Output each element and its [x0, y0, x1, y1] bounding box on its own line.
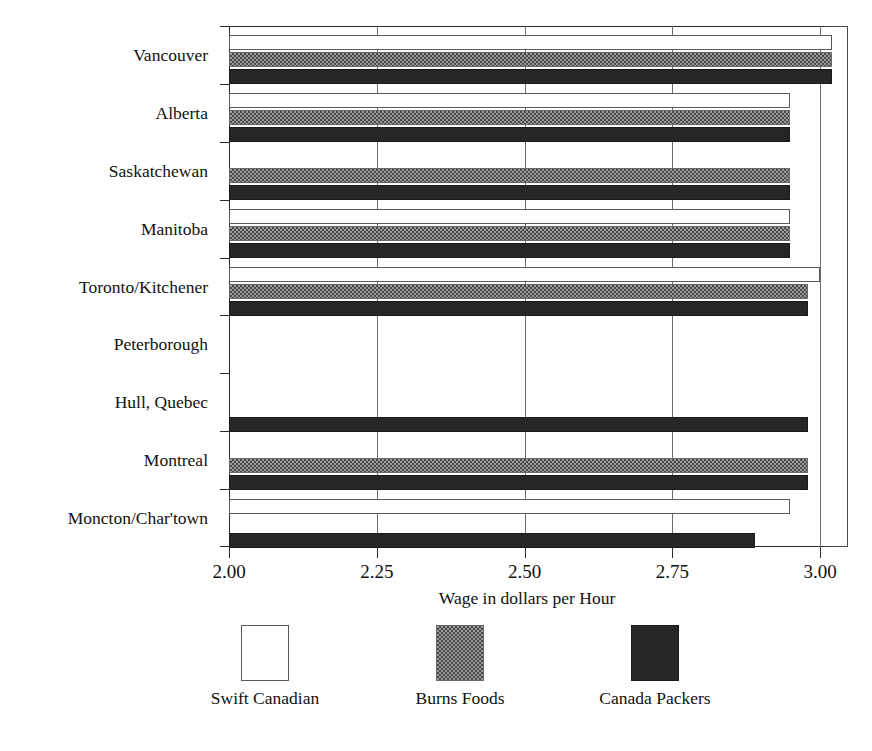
bar [229, 533, 755, 548]
legend-item[interactable]: Canada Packers [570, 625, 740, 709]
bar [229, 69, 832, 84]
y-axis-label: Hull, Quebec [0, 393, 208, 411]
bar [229, 499, 790, 514]
bar [229, 168, 790, 183]
y-axis-tick [220, 546, 229, 547]
bar [229, 35, 832, 50]
legend-item[interactable]: Burns Foods [375, 625, 545, 709]
bar [229, 417, 808, 432]
y-axis-tick [220, 142, 229, 143]
x-axis-tick-label: 2.25 [337, 561, 417, 583]
plot-right-top-edge [825, 26, 847, 27]
gridline [820, 26, 821, 547]
legend-item[interactable]: Swift Canadian [180, 625, 350, 709]
bar [229, 475, 808, 490]
x-axis-tick [820, 547, 821, 558]
x-axis-tick-label: 2.00 [189, 561, 269, 583]
legend-label: Canada Packers [570, 687, 740, 709]
y-axis-tick [220, 431, 229, 432]
bar [229, 110, 790, 125]
y-axis-label: Peterborough [0, 335, 208, 353]
bar [229, 243, 790, 258]
plot-right-bottom-edge [825, 546, 847, 547]
bar [229, 284, 808, 299]
x-axis-tick [229, 547, 230, 558]
plot-area [229, 26, 825, 547]
legend-label: Swift Canadian [180, 687, 350, 709]
y-axis-label: Saskatchewan [0, 162, 208, 180]
bar [229, 301, 808, 316]
bar [229, 226, 790, 241]
y-axis-label: Montreal [0, 451, 208, 469]
legend-swatch-white-open-square [241, 625, 289, 681]
y-axis-tick [220, 315, 229, 316]
bar [229, 185, 790, 200]
x-axis-tick-label: 3.00 [780, 561, 860, 583]
x-axis-tick-label: 2.75 [632, 561, 712, 583]
y-axis-tick [220, 84, 229, 85]
y-axis-tick [220, 258, 229, 259]
bar [229, 52, 832, 67]
x-axis-title: Wage in dollars per Hour [229, 587, 825, 609]
plot-right-edge [847, 26, 848, 547]
legend-swatch-black-filled-square [631, 625, 679, 681]
y-axis-tick [220, 200, 229, 201]
bar [229, 458, 808, 473]
y-axis-label: Manitoba [0, 220, 208, 238]
y-axis-label: Moncton/Char'town [0, 509, 208, 527]
x-axis-tick [377, 547, 378, 558]
bar [229, 127, 790, 142]
y-axis-label: Vancouver [0, 46, 208, 64]
legend-swatch-gray-checker-square [436, 625, 484, 681]
bar [229, 93, 790, 108]
legend-swatch-wrapper [180, 625, 350, 687]
y-axis-label: Alberta [0, 104, 208, 122]
legend-swatch-wrapper [375, 625, 545, 687]
bar-chart: VancouverAlbertaSaskatchewanManitobaToro… [0, 0, 872, 751]
bar [229, 209, 790, 224]
y-axis-tick [220, 489, 229, 490]
y-axis-category-labels: VancouverAlbertaSaskatchewanManitobaToro… [0, 26, 218, 547]
x-axis-tick [525, 547, 526, 558]
legend-swatch-wrapper [570, 625, 740, 687]
bar [229, 267, 820, 282]
y-axis-tick [220, 373, 229, 374]
x-axis-tick-label: 2.50 [485, 561, 565, 583]
y-axis-tick [220, 26, 229, 27]
x-axis-tick [672, 547, 673, 558]
y-axis-label: Toronto/Kitchener [0, 278, 208, 296]
legend-label: Burns Foods [375, 687, 545, 709]
x-axis: 2.002.252.502.753.00 [229, 547, 825, 587]
legend: Swift CanadianBurns FoodsCanada Packers [180, 625, 740, 735]
